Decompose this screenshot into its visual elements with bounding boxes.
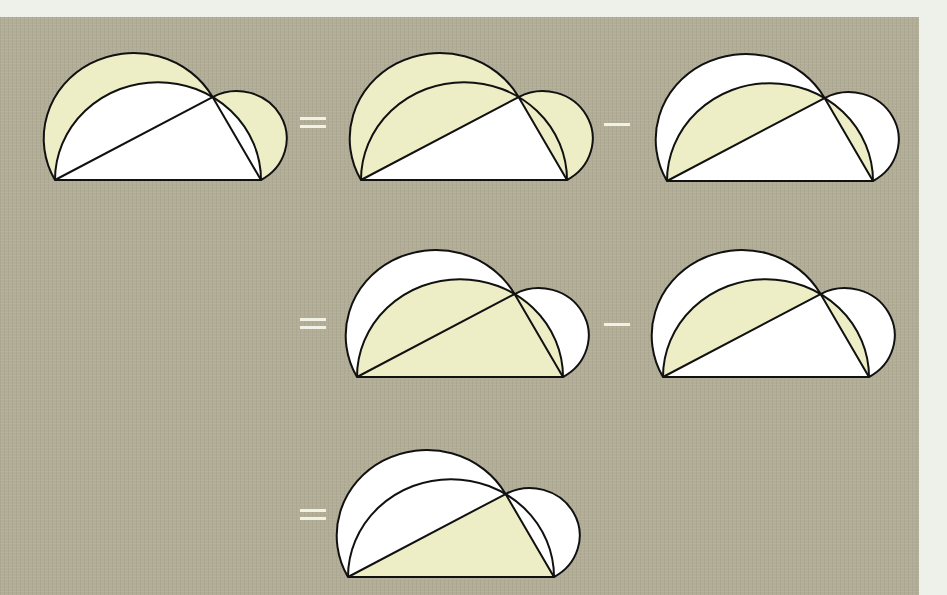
lune-diagram xyxy=(0,0,947,595)
minus-sign-row2 xyxy=(604,323,630,326)
equals-sign-row3 xyxy=(300,509,326,521)
figure-triangle xyxy=(337,450,580,577)
equals-sign-row2 xyxy=(300,318,326,330)
figure-segments xyxy=(656,54,899,181)
minus-sign-row1 xyxy=(604,123,630,126)
figure-lunes xyxy=(44,53,287,180)
equals-sign-row1 xyxy=(300,117,326,129)
figure-segments xyxy=(652,250,895,377)
figure-leg-semicircles xyxy=(350,53,593,180)
figure-hypotenuse-semicircle xyxy=(346,250,589,377)
